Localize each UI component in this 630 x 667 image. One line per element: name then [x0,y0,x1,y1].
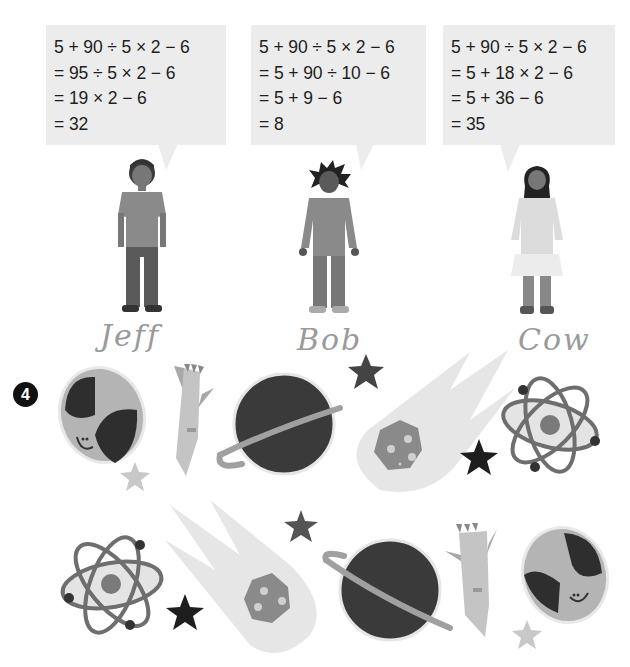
star-icon [458,437,500,479]
exercise-number-badge: 4 [13,382,38,407]
star-icon [510,618,544,652]
rocket-icon[interactable] [443,515,508,640]
alien-head-icon[interactable] [518,525,613,625]
atom-icon[interactable] [495,370,605,480]
bob-figure [295,160,365,320]
atom-icon[interactable] [55,528,170,643]
signature-jeff: Jeff [100,318,160,353]
star-icon [118,460,152,494]
cow-figure [503,158,573,323]
saturn-planet-icon[interactable] [320,528,455,643]
saturn-planet-icon[interactable] [212,370,342,480]
jeff-figure [108,155,178,325]
alien-head-icon[interactable] [55,365,150,465]
signature-cow: Cow [518,322,591,357]
star-icon [282,508,320,546]
